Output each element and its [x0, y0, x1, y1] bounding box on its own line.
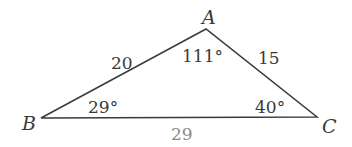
side-ab-label: 20 [111, 53, 133, 73]
vertex-a-label: A [200, 6, 216, 28]
side-bc-label: 29 [171, 124, 193, 144]
vertex-b-label: B [21, 112, 36, 134]
angle-a-label: 111° [182, 46, 223, 66]
angle-b-label: 29° [88, 97, 118, 117]
triangle-diagram: A B C 20 15 29 111° 29° 40° [0, 0, 352, 147]
side-ac-label: 15 [258, 48, 280, 68]
vertex-c-label: C [322, 115, 337, 137]
angle-c-label: 40° [255, 97, 285, 117]
